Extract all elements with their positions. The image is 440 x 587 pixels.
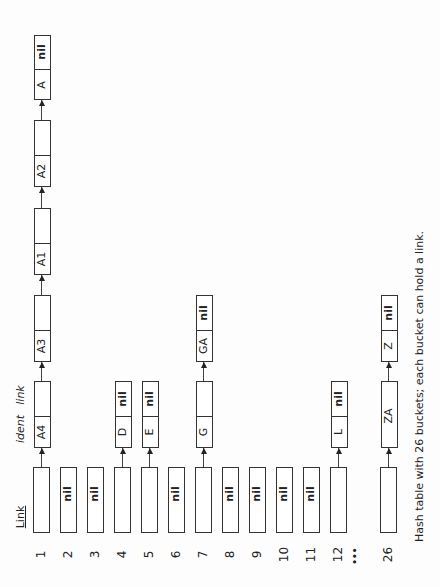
- bucket-index: 11: [305, 540, 318, 570]
- ident-cell: A4: [36, 417, 48, 447]
- bucket-index: 3: [89, 540, 102, 570]
- ident-cell: ZA: [383, 401, 395, 431]
- bucket-index: 1: [35, 540, 48, 570]
- chain-node: ZA: [381, 381, 398, 448]
- nil-label: nil: [117, 384, 129, 414]
- bucket-11: nil: [303, 467, 320, 533]
- hash-table-diagram: Link ident link 1A4A3A1A2nilAnil2nil34ni…: [0, 0, 440, 587]
- bucket-index: 26: [382, 540, 395, 570]
- bucket-index: 8: [224, 540, 237, 570]
- ident-cell: L: [333, 417, 345, 447]
- chain-node: nilGA: [196, 295, 213, 362]
- bucket-index: 7: [197, 540, 210, 570]
- ident-field-label: ident: [15, 412, 27, 446]
- bucket-3: nil: [87, 467, 104, 533]
- nil-label: nil: [198, 298, 210, 328]
- bucket-index: 10: [278, 540, 291, 570]
- nil-label: nil: [62, 479, 74, 509]
- arrowhead-icon: [120, 448, 126, 454]
- link-column-label: Link: [15, 501, 27, 533]
- bucket-5: [141, 467, 158, 533]
- chain-node: A1: [34, 208, 51, 275]
- bucket-4: [114, 467, 131, 533]
- chain-node: nilA: [34, 35, 51, 100]
- chain-node: A2: [34, 120, 51, 187]
- arrowhead-icon: [386, 448, 392, 454]
- nil-label: nil: [251, 479, 263, 509]
- arrowhead-icon: [39, 448, 45, 454]
- bucket-index: 12: [332, 540, 345, 570]
- ident-cell: D: [117, 417, 129, 447]
- bucket-index: 6: [170, 540, 183, 570]
- arrowhead-icon: [147, 448, 153, 454]
- nil-label: nil: [383, 298, 395, 328]
- ident-cell: A: [36, 70, 48, 100]
- bucket-12: [330, 467, 347, 533]
- chain-node: nilL: [331, 381, 348, 448]
- link-field-label: link: [15, 380, 27, 410]
- ident-cell: A1: [36, 244, 48, 274]
- ident-cell: A3: [36, 331, 48, 361]
- nil-label: nil: [144, 384, 156, 414]
- bucket-index: 4: [116, 540, 129, 570]
- bucket-7: [195, 467, 212, 533]
- ellipsis: •••: [351, 541, 361, 571]
- ident-cell: A2: [36, 156, 48, 186]
- arrowhead-icon: [39, 100, 45, 106]
- chain-node: A3: [34, 295, 51, 362]
- bucket-index: 9: [251, 540, 264, 570]
- chain-node: nilZ: [381, 295, 398, 362]
- bucket-index: 2: [62, 540, 75, 570]
- figure-caption: Hash table with 26 buckets; each bucket …: [414, 187, 427, 587]
- ident-cell: E: [144, 417, 156, 447]
- chain-node: nilE: [142, 381, 159, 448]
- ident-cell: GA: [198, 331, 210, 361]
- arrowhead-icon: [201, 448, 207, 454]
- arrowhead-icon: [386, 362, 392, 368]
- arrowhead-icon: [336, 448, 342, 454]
- bucket-2: nil: [60, 467, 77, 533]
- bucket-8: nil: [222, 467, 239, 533]
- ident-cell: Z: [383, 331, 395, 361]
- nil-label: nil: [224, 479, 236, 509]
- bucket-6: nil: [168, 467, 185, 533]
- chain-node: A4: [34, 381, 51, 448]
- bucket-10: nil: [276, 467, 293, 533]
- nil-label: nil: [333, 384, 345, 414]
- nil-label: nil: [89, 479, 101, 509]
- chain-node: nilD: [115, 381, 132, 448]
- bucket-9: nil: [249, 467, 266, 533]
- bucket-index: 5: [143, 540, 156, 570]
- bucket-26: [380, 467, 397, 533]
- ident-cell: G: [198, 417, 210, 447]
- nil-label: nil: [278, 479, 290, 509]
- nil-label: nil: [36, 37, 48, 67]
- nil-label: nil: [305, 479, 317, 509]
- nil-label: nil: [170, 479, 182, 509]
- arrowhead-icon: [39, 362, 45, 368]
- arrowhead-icon: [39, 187, 45, 193]
- arrowhead-icon: [39, 275, 45, 281]
- chain-node: G: [196, 381, 213, 448]
- bucket-1: [33, 467, 50, 533]
- arrowhead-icon: [201, 362, 207, 368]
